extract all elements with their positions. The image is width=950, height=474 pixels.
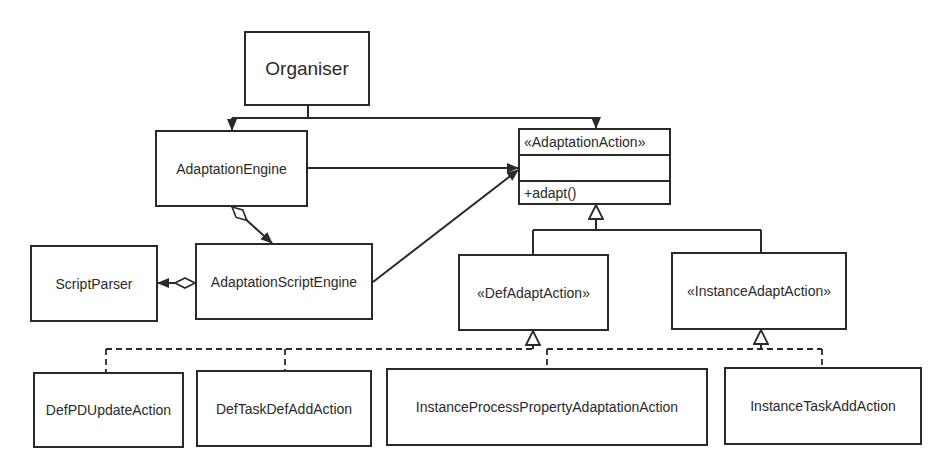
class-def-pd-update-action[interactable]: DefPDUpdateAction xyxy=(33,372,184,448)
class-label: «DefAdaptAction» xyxy=(477,285,590,301)
class-label: AdaptationScriptEngine xyxy=(211,274,357,290)
operation-adapt: +adapt() xyxy=(524,185,577,201)
class-label: InstanceTaskAddAction xyxy=(750,398,896,414)
class-organiser[interactable]: Organiser xyxy=(244,31,370,106)
class-def-task-def-add-action[interactable]: DefTaskDefAddAction xyxy=(196,370,372,447)
class-name-compartment: «AdaptationAction» xyxy=(520,130,669,156)
attributes-compartment xyxy=(520,156,669,182)
engine-aggregates-script-engine xyxy=(232,207,272,243)
uml-diagram-canvas: Organiser AdaptationEngine «AdaptationAc… xyxy=(0,0,950,474)
class-label: DefPDUpdateAction xyxy=(46,402,171,418)
class-instance-process-property-adaptation-action[interactable]: InstanceProcessPropertyAdaptationAction xyxy=(386,368,708,446)
class-instance-task-add-action[interactable]: InstanceTaskAddAction xyxy=(724,367,922,445)
operations-compartment: +adapt() xyxy=(520,182,669,203)
class-label: «InstanceAdaptAction» xyxy=(687,283,831,299)
class-adaptation-engine[interactable]: AdaptationEngine xyxy=(155,130,308,207)
class-def-adapt-action[interactable]: «DefAdaptAction» xyxy=(458,254,609,331)
class-adaptation-script-engine[interactable]: AdaptationScriptEngine xyxy=(195,243,373,320)
class-label: AdaptationEngine xyxy=(176,161,287,177)
class-instance-adapt-action[interactable]: «InstanceAdaptAction» xyxy=(671,252,847,330)
class-label: DefTaskDefAddAction xyxy=(216,401,352,417)
stereotype-label: «AdaptationAction» xyxy=(524,134,645,150)
class-label: ScriptParser xyxy=(55,276,132,292)
class-label: Organiser xyxy=(265,58,348,80)
class-script-parser[interactable]: ScriptParser xyxy=(30,245,158,322)
class-adaptation-action[interactable]: «AdaptationAction» +adapt() xyxy=(518,128,671,205)
class-label: InstanceProcessPropertyAdaptationAction xyxy=(416,399,678,415)
